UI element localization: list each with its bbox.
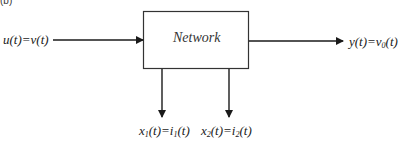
network-label: Network	[173, 30, 220, 46]
input-label: u(t)=v(t)	[3, 32, 49, 48]
state-label-2: x2(t)=i2(t)	[201, 123, 252, 139]
output-label: y(t)=v0(t)	[349, 34, 398, 50]
state-label-1: x1(t)=i1(t)	[139, 123, 190, 139]
block-diagram	[0, 0, 404, 141]
